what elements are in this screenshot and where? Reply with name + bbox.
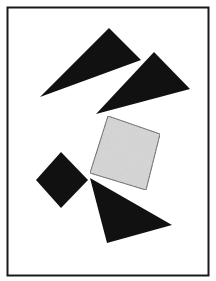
triangle-bottom xyxy=(90,178,172,243)
shapes-group xyxy=(36,28,190,243)
figure-canvas xyxy=(0,0,216,281)
diamond-left xyxy=(36,152,88,208)
figure-svg xyxy=(0,0,216,281)
square-gray xyxy=(90,116,160,190)
